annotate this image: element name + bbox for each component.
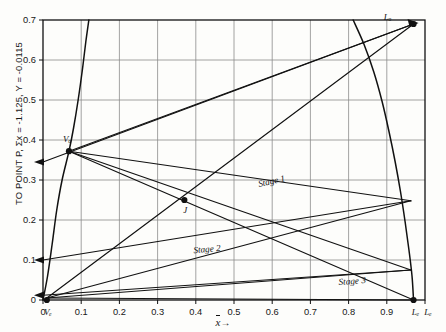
series-arrow-line-to-P-upper: [43, 24, 414, 162]
point-Lo-label: Lₒ: [383, 12, 392, 22]
plot-canvas: 00.10.20.30.40.50.60.70.80.900.10.20.30.…: [0, 0, 446, 332]
y-tick-label: 0.3: [23, 175, 36, 185]
point-origin-Vb-marker: [44, 297, 50, 303]
x-axis-arrow-icon: →: [220, 317, 230, 328]
point-Lb-marker: [410, 297, 416, 303]
tick-labels: 00.10.20.30.40.50.60.70.80.900.10.20.30.…: [23, 15, 432, 317]
series-tieline-origin-to-Lo: [47, 24, 414, 298]
y-tick-label: 0.2: [23, 215, 36, 225]
y-axis-label: TO POINT P, Σx = -1.125, Y = -0.0115: [13, 18, 24, 230]
y-tick-label: 0.7: [23, 15, 36, 25]
y-tick-label: 0.1: [23, 255, 36, 265]
point-J-label: J: [183, 205, 188, 215]
axes-frame: [39, 20, 425, 304]
chart-figure: TO POINT P, Σx = -1.125, Y = -0.0115 x→ …: [0, 0, 446, 332]
point-Vb-label: Vₒ: [63, 134, 71, 144]
stage-2-label: Stage 2: [193, 243, 221, 255]
stage-1-label: Stage 1: [257, 173, 286, 189]
y-axis-label-text: TO POINT P, Σx = -1.125, Y = -0.0115: [13, 42, 24, 205]
x-axis-label: x→: [0, 316, 446, 328]
y-tick-label: 0: [31, 295, 36, 305]
data-series: [34, 19, 419, 300]
y-tick-label: 0.4: [23, 135, 36, 145]
series-operating-line-Vb-to-right-025: [69, 151, 411, 201]
y-tick-label: 0.6: [23, 55, 36, 65]
stage-3-label: Stage 3: [338, 275, 366, 287]
arrow-to-P-upper-icon: [34, 158, 44, 165]
point-Lo-marker: [410, 21, 416, 27]
point-J-marker: [181, 197, 187, 203]
point-Vb-marker: [66, 148, 72, 154]
y-tick-label: 0.5: [23, 95, 36, 105]
series-operating-line-Vb-to-right-007: [69, 151, 411, 270]
